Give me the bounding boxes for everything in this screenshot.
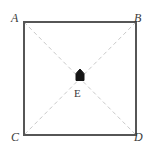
geometry-figure-svg xyxy=(0,0,151,151)
vertex-label-c: C xyxy=(11,131,19,143)
vertex-label-d: D xyxy=(134,131,143,143)
vertex-label-a: A xyxy=(11,12,18,24)
geometry-figure-canvas: A B C D E xyxy=(0,0,151,151)
pentagon-house-icon xyxy=(76,69,84,81)
vertex-label-b: B xyxy=(134,12,141,24)
center-point-label-e: E xyxy=(74,88,81,99)
center-point-marker xyxy=(76,69,84,81)
